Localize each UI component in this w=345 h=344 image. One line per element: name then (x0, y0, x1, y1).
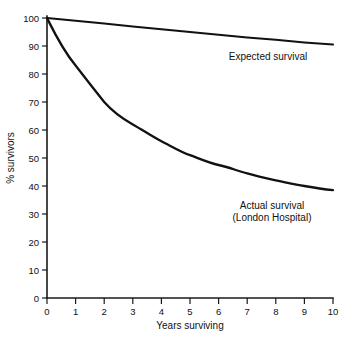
y-tick-label-60: 60 (28, 125, 39, 136)
y-tick-label-80: 80 (28, 69, 39, 80)
survival-chart-figure: 0 10 20 30 40 50 60 70 80 90 100 (0, 0, 345, 344)
actual-survival-annotation-line1: Actual survival (240, 200, 304, 211)
y-tick-label-100: 100 (23, 13, 39, 24)
x-tick-label-1: 1 (73, 306, 78, 317)
survival-chart-svg: 0 10 20 30 40 50 60 70 80 90 100 (0, 0, 345, 344)
x-tick-label-6: 6 (216, 306, 221, 317)
actual-survival-annotation-line2: (London Hospital) (233, 212, 312, 223)
y-tick-label-40: 40 (28, 181, 39, 192)
y-tick-label-30: 30 (28, 209, 39, 220)
x-tick-label-4: 4 (159, 306, 164, 317)
y-tick-label-10: 10 (28, 265, 39, 276)
y-tick-label-0: 0 (34, 293, 39, 304)
y-axis-title: % survivors (5, 132, 16, 184)
x-tick-label-7: 7 (245, 306, 250, 317)
x-tick-label-8: 8 (273, 306, 278, 317)
expected-survival-annotation: Expected survival (229, 51, 307, 62)
y-tick-label-20: 20 (28, 237, 39, 248)
x-axis-tick-labels: 0 1 2 3 4 5 6 7 8 9 10 (44, 306, 338, 317)
x-axis-title: Years surviving (156, 320, 223, 331)
y-axis-tick-labels: 0 10 20 30 40 50 60 70 80 90 100 (23, 13, 39, 304)
y-tick-label-50: 50 (28, 153, 39, 164)
x-tick-label-2: 2 (102, 306, 107, 317)
y-tick-label-70: 70 (28, 97, 39, 108)
x-axis-ticks (47, 298, 333, 304)
x-tick-label-5: 5 (187, 306, 192, 317)
expected-survival-curve (47, 18, 333, 45)
y-tick-label-90: 90 (28, 41, 39, 52)
x-tick-label-3: 3 (130, 306, 135, 317)
x-tick-label-0: 0 (44, 306, 49, 317)
x-tick-label-10: 10 (328, 306, 339, 317)
actual-survival-curve (47, 18, 333, 190)
x-tick-label-9: 9 (302, 306, 307, 317)
